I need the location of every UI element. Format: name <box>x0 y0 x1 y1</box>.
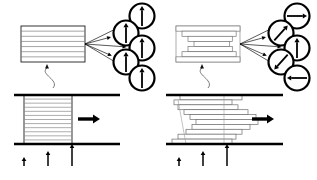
sheared-lamella <box>196 120 258 125</box>
figure-root <box>0 0 317 180</box>
orientation-circle-5 <box>130 66 155 91</box>
sheared-lamella <box>192 124 250 129</box>
staggered-lamella <box>176 57 240 62</box>
sheared-lamella <box>184 110 248 115</box>
sheared-lamella <box>174 100 232 105</box>
staggered-lamella <box>188 47 232 52</box>
orientation-circle-5 <box>285 66 310 91</box>
staggered-lamella <box>176 26 240 31</box>
shear-orientation-diagram <box>0 0 317 180</box>
staggered-lamella <box>182 31 236 36</box>
sheared-lamella <box>178 134 236 139</box>
sheared-lamella <box>190 115 256 120</box>
staggered-lamella <box>194 41 230 46</box>
staggered-lamella <box>188 36 232 41</box>
sheared-lamella <box>178 105 238 110</box>
sheared-lamella <box>186 129 242 134</box>
staggered-lamella <box>182 52 236 57</box>
